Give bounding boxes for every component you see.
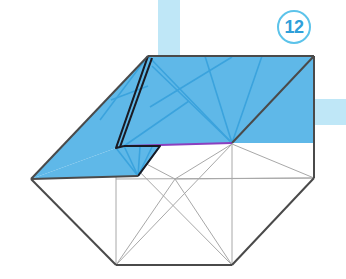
step-number-label: 12 [284, 18, 303, 36]
step-number-badge: 12 [277, 10, 311, 44]
background-strip-right [314, 99, 346, 125]
diagram-canvas: 12 [0, 0, 346, 279]
background-strip-top [158, 0, 180, 57]
